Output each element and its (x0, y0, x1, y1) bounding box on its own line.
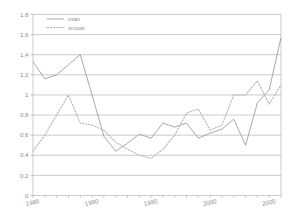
y-tick-label: 1,2 (20, 71, 29, 78)
data-series-group (33, 38, 281, 159)
x-tick-label: 1990 (84, 197, 99, 207)
chart-legend: manvrouw (47, 15, 85, 31)
y-tick-label: 0,6 (20, 131, 29, 138)
y-tick-label: 1,8 (20, 11, 29, 18)
y-tick-label: 0 (25, 192, 29, 199)
x-axis-tick-labels: 19851990199520002005 (25, 197, 277, 207)
gridlines (33, 15, 281, 196)
y-tick-label: 0,8 (20, 111, 29, 118)
chart-plot-area: 1,81,61,41,210,80,60,40,20 1985199019952… (0, 0, 290, 219)
chart-svg: 1,81,61,41,210,80,60,40,20 1985199019952… (0, 0, 290, 219)
axis-ticks (31, 15, 282, 199)
y-tick-label: 1,4 (20, 51, 29, 58)
y-tick-label: 0,2 (20, 172, 29, 179)
y-tick-label: 0,4 (20, 151, 29, 158)
legend-label-vrouw: vrouw (68, 24, 85, 31)
x-tick-label: 2005 (261, 197, 276, 207)
line-chart: 1,81,61,41,210,80,60,40,20 1985199019952… (0, 0, 290, 219)
legend-label-man: man (68, 15, 81, 22)
y-tick-label: 1 (25, 91, 29, 98)
y-tick-label: 1,6 (20, 31, 29, 38)
x-tick-label: 2000 (202, 197, 217, 207)
x-tick-label: 1995 (143, 197, 158, 207)
y-axis-tick-labels: 1,81,61,41,210,80,60,40,20 (20, 11, 29, 199)
series-line-vrouw (33, 81, 281, 158)
